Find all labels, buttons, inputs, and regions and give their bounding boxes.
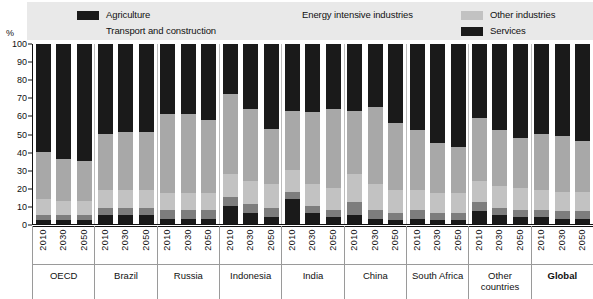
x-year-label-2010: 2010 — [36, 229, 51, 251]
bar-segment-agriculture — [492, 215, 507, 224]
bar-segment-agriculture — [223, 206, 238, 224]
x-year-label-2050: 2050 — [513, 229, 528, 251]
bar-segment-agriculture — [243, 213, 258, 224]
x-axis-group-divider — [32, 264, 593, 265]
bar-russia-2030[interactable] — [181, 44, 196, 224]
bar-segment-transport-and-construction — [388, 123, 403, 190]
bar-segment-transport-and-construction — [326, 109, 341, 188]
bar-india-2010[interactable] — [285, 44, 300, 224]
bar-segment-transport-and-construction — [492, 130, 507, 186]
bar-segment-energy-intensive-industries — [223, 197, 238, 206]
x-year-label-2010: 2010 — [98, 229, 113, 251]
legend-item-services: Services — [461, 23, 526, 39]
bar-other-countries-2010[interactable] — [472, 44, 487, 224]
x-year-label-2030: 2030 — [430, 229, 445, 251]
bar-segment-energy-intensive-industries — [243, 204, 258, 213]
bar-oecd-2010[interactable] — [36, 44, 51, 224]
bar-segment-other-industries — [410, 190, 425, 210]
bar-segment-energy-intensive-industries — [430, 213, 445, 220]
bar-south-africa-2050[interactable] — [451, 44, 466, 224]
bar-segment-transport-and-construction — [181, 114, 196, 193]
bar-segment-agriculture — [451, 220, 466, 224]
bar-segment-agriculture — [118, 215, 133, 224]
bar-segment-transport-and-construction — [77, 161, 92, 201]
bar-indonesia-2050[interactable] — [264, 44, 279, 224]
y-tick-label-30: 30 — [1, 166, 27, 176]
bar-segment-services — [243, 44, 258, 109]
bar-segment-transport-and-construction — [410, 130, 425, 189]
bar-segment-other-industries — [243, 181, 258, 204]
bar-brazil-2050[interactable] — [139, 44, 154, 224]
bar-india-2030[interactable] — [305, 44, 320, 224]
bar-segment-agriculture — [513, 217, 528, 224]
legend-swatch-transport-and-construction — [77, 27, 99, 36]
bar-segment-agriculture — [430, 220, 445, 224]
bar-segment-energy-intensive-industries — [534, 210, 549, 217]
bar-global-2010[interactable] — [534, 44, 549, 224]
bar-china-2030[interactable] — [368, 44, 383, 224]
bar-segment-transport-and-construction — [347, 111, 362, 174]
x-group-indonesia: 201020302050Indonesia — [220, 226, 282, 299]
bar-segment-energy-intensive-industries — [264, 208, 279, 217]
bar-segment-services — [451, 44, 466, 147]
y-tick-label-70: 70 — [1, 93, 27, 103]
x-group-label: Brazil — [95, 266, 156, 299]
bar-segment-services — [326, 44, 341, 109]
bar-oecd-2050[interactable] — [77, 44, 92, 224]
bar-segment-energy-intensive-industries — [513, 210, 528, 217]
bar-global-2050[interactable] — [575, 44, 590, 224]
bar-oecd-2030[interactable] — [56, 44, 71, 224]
bar-india-2050[interactable] — [326, 44, 341, 224]
bar-brazil-2030[interactable] — [118, 44, 133, 224]
legend-label-transport-and-construction: Transport and construction — [106, 26, 216, 36]
bar-segment-services — [555, 44, 570, 136]
bar-segment-transport-and-construction — [264, 129, 279, 185]
bar-segment-other-industries — [347, 174, 362, 203]
bar-segment-transport-and-construction — [98, 134, 113, 190]
bar-segment-other-industries — [451, 193, 466, 213]
y-tick-label-80: 80 — [1, 75, 27, 85]
bar-segment-services — [285, 44, 300, 111]
bar-segment-transport-and-construction — [305, 112, 320, 184]
bar-china-2010[interactable] — [347, 44, 362, 224]
bar-russia-2050[interactable] — [201, 44, 216, 224]
bar-segment-energy-intensive-industries — [160, 210, 175, 219]
bar-segment-other-industries — [181, 193, 196, 209]
legend-label-agriculture: Agriculture — [106, 10, 150, 20]
bar-china-2050[interactable] — [388, 44, 403, 224]
x-year-label-2030: 2030 — [181, 229, 196, 251]
bar-segment-other-industries — [36, 199, 51, 215]
bar-segment-services — [264, 44, 279, 129]
bar-segment-agriculture — [410, 219, 425, 224]
x-year-labels: 201020302050 — [220, 226, 281, 266]
bar-segment-energy-intensive-industries — [410, 210, 425, 219]
bar-group-other-countries — [469, 44, 531, 224]
bar-segment-agriculture — [36, 220, 51, 224]
bar-segment-transport-and-construction — [160, 114, 175, 193]
bar-segment-agriculture — [555, 219, 570, 224]
bar-south-africa-2030[interactable] — [430, 44, 445, 224]
bar-russia-2010[interactable] — [160, 44, 175, 224]
x-group-oecd: 201020302050OECD — [32, 226, 95, 299]
x-group-label: Russia — [158, 266, 219, 299]
x-year-label-2050: 2050 — [201, 229, 216, 251]
bar-indonesia-2010[interactable] — [223, 44, 238, 224]
bar-other-countries-2030[interactable] — [492, 44, 507, 224]
bar-segment-other-industries — [575, 192, 590, 212]
bar-global-2030[interactable] — [555, 44, 570, 224]
bar-segment-transport-and-construction — [36, 152, 51, 199]
x-year-labels: 201020302050 — [345, 226, 406, 266]
x-group-label: Indonesia — [220, 266, 281, 299]
bar-indonesia-2030[interactable] — [243, 44, 258, 224]
y-axis: 1009080706050403020100 — [0, 40, 32, 226]
chart-legend: Agriculture Energy intensive industries … — [27, 2, 593, 40]
bar-segment-services — [36, 44, 51, 152]
bar-segment-services — [430, 44, 445, 143]
bar-brazil-2010[interactable] — [98, 44, 113, 224]
bar-south-africa-2010[interactable] — [410, 44, 425, 224]
bar-group-india — [282, 44, 344, 224]
x-year-labels: 201020302050 — [282, 226, 343, 266]
bar-segment-energy-intensive-industries — [139, 208, 154, 215]
bar-segment-services — [139, 44, 154, 132]
bar-other-countries-2050[interactable] — [513, 44, 528, 224]
